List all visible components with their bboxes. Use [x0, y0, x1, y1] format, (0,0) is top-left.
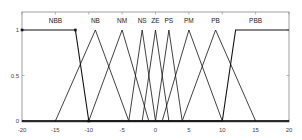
- x-tick-label: 20: [286, 127, 293, 133]
- label-ps: PS: [165, 17, 174, 24]
- nbb-marker: [87, 120, 90, 123]
- label-pbb: PBB: [249, 17, 262, 24]
- x-tick-label: -10: [84, 127, 93, 133]
- x-tick-label: -15: [51, 127, 60, 133]
- nbb-marker: [21, 29, 24, 32]
- membership-function-chart: -20-15-10-50510152000.51 NBBNBNMNSZEPSPM…: [0, 0, 302, 140]
- y-tick-label: 1: [16, 27, 20, 33]
- label-pb: PB: [211, 17, 220, 24]
- y-tick-label: 0.5: [11, 73, 20, 79]
- label-nb: NB: [91, 17, 100, 24]
- x-tick-label: -20: [18, 127, 27, 133]
- label-nm: NM: [117, 17, 127, 24]
- x-tick-label: -5: [119, 127, 125, 133]
- nbb-marker: [74, 29, 77, 32]
- label-pm: PM: [184, 17, 194, 24]
- x-tick-label: 0: [154, 127, 158, 133]
- x-tick-label: 5: [187, 127, 191, 133]
- label-nbb: NBB: [49, 17, 62, 24]
- label-ns: NS: [138, 17, 148, 24]
- x-tick-label: 10: [219, 127, 226, 133]
- y-tick-label: 0: [16, 118, 20, 124]
- label-ze: ZE: [151, 17, 160, 24]
- x-tick-label: 15: [252, 127, 259, 133]
